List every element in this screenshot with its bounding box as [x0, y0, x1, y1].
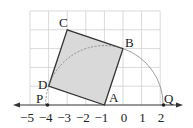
- tick-label: 0: [121, 110, 128, 125]
- tick-label: −3: [57, 110, 71, 125]
- tick-label: 2: [158, 110, 165, 125]
- label-d: D: [38, 77, 47, 92]
- label-b: B: [125, 35, 134, 50]
- label-a: A: [109, 90, 119, 105]
- tick-label: −2: [76, 110, 90, 125]
- tick-label: 1: [139, 110, 146, 125]
- tick-label: −4: [39, 110, 53, 125]
- label-c: C: [59, 15, 68, 30]
- arrow-left-icon: [13, 103, 20, 108]
- label-p: P: [36, 91, 43, 106]
- diagram: C B D A P Q −5 −4 −3 −2 −1 0 1 2: [0, 0, 193, 128]
- point-p: [46, 103, 50, 107]
- tick-labels: −5 −4 −3 −2 −1 0 1 2: [20, 110, 164, 125]
- arrow-right-icon: [176, 103, 183, 108]
- label-q: Q: [164, 91, 174, 106]
- tick-label: −5: [20, 110, 34, 125]
- arc-solid: [123, 49, 163, 105]
- tick-label: −1: [94, 110, 108, 125]
